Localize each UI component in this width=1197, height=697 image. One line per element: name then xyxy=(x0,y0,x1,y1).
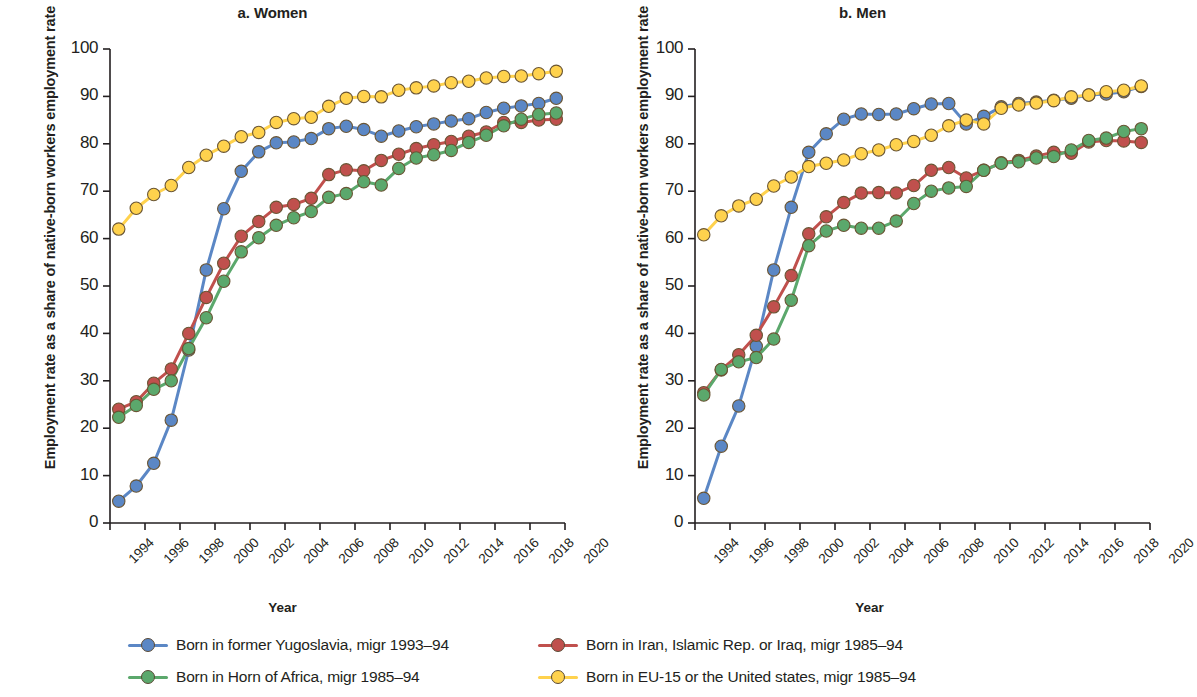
legend-dot xyxy=(141,638,155,652)
data-point xyxy=(445,144,457,156)
data-point xyxy=(235,165,247,177)
data-point xyxy=(200,264,212,276)
data-point xyxy=(218,140,230,152)
data-point xyxy=(130,202,142,214)
y-tick-label: 10 xyxy=(637,465,683,485)
data-point xyxy=(1118,125,1130,137)
data-point xyxy=(305,132,317,144)
data-point xyxy=(715,210,727,222)
data-point xyxy=(445,115,457,127)
y-tick-label: 50 xyxy=(637,275,683,295)
data-point xyxy=(820,225,832,237)
data-point xyxy=(235,230,247,242)
data-point xyxy=(890,187,902,199)
data-point xyxy=(200,312,212,324)
y-tick-label: 40 xyxy=(637,322,683,342)
y-tick-label: 100 xyxy=(52,38,98,58)
panel-men: b. Men Employment rate as a share of nat… xyxy=(585,0,1170,625)
data-point xyxy=(855,148,867,160)
data-point xyxy=(463,136,475,148)
data-point xyxy=(410,121,422,133)
data-point xyxy=(270,116,282,128)
data-point xyxy=(890,139,902,151)
data-point xyxy=(288,136,300,148)
data-point xyxy=(340,164,352,176)
data-point xyxy=(925,129,937,141)
data-point xyxy=(768,264,780,276)
legend-marker-icon xyxy=(538,668,578,686)
data-point xyxy=(908,135,920,147)
data-point xyxy=(1048,150,1060,162)
legend-item[interactable]: Born in Iran, Islamic Rep. or Iraq, migr… xyxy=(538,632,903,658)
data-point xyxy=(428,118,440,130)
data-point xyxy=(393,84,405,96)
axes xyxy=(688,49,1150,530)
data-point xyxy=(890,108,902,120)
data-point xyxy=(533,67,545,79)
y-tick-label: 30 xyxy=(637,370,683,390)
data-point xyxy=(733,356,745,368)
data-point xyxy=(515,100,527,112)
data-point xyxy=(375,91,387,103)
data-point xyxy=(270,137,282,149)
data-point xyxy=(550,92,562,104)
y-tick-label: 70 xyxy=(52,180,98,200)
data-point xyxy=(270,219,282,231)
data-point xyxy=(855,108,867,120)
data-point xyxy=(358,90,370,102)
y-tick-label: 10 xyxy=(52,465,98,485)
legend-dot xyxy=(141,670,155,684)
data-point xyxy=(908,179,920,191)
legend-label: Born in former Yugoslavia, migr 1993–94 xyxy=(176,636,449,654)
legend-item[interactable]: Born in Horn of Africa, migr 1985–94 xyxy=(128,664,420,690)
y-tick-label: 0 xyxy=(52,512,98,532)
data-point xyxy=(785,171,797,183)
data-point xyxy=(165,179,177,191)
data-point xyxy=(925,98,937,110)
data-point xyxy=(113,223,125,235)
data-point xyxy=(978,118,990,130)
data-point xyxy=(785,269,797,281)
data-point xyxy=(393,148,405,160)
legend-item[interactable]: Born in former Yugoslavia, migr 1993–94 xyxy=(128,632,449,658)
data-point xyxy=(323,122,335,134)
axes xyxy=(103,49,565,530)
data-point xyxy=(480,106,492,118)
data-point xyxy=(785,201,797,213)
data-point xyxy=(873,222,885,234)
data-point xyxy=(305,111,317,123)
data-point xyxy=(750,329,762,341)
data-point xyxy=(978,164,990,176)
legend-label: Born in Horn of Africa, migr 1985–94 xyxy=(176,668,420,686)
series-line xyxy=(704,129,1142,395)
y-tick-label: 100 xyxy=(637,38,683,58)
data-point xyxy=(550,65,562,77)
legend-dot xyxy=(551,638,565,652)
data-point xyxy=(323,100,335,112)
data-point xyxy=(515,70,527,82)
y-tick-label: 90 xyxy=(637,85,683,105)
data-point xyxy=(1100,85,1112,97)
panel-women: a. Women Employment rate as a share of n… xyxy=(0,0,585,625)
data-point xyxy=(200,149,212,161)
legend-marker-icon xyxy=(128,668,168,686)
data-point xyxy=(838,113,850,125)
figure-legend: Born in former Yugoslavia, migr 1993–94B… xyxy=(0,628,1170,697)
data-point xyxy=(498,120,510,132)
data-point xyxy=(428,149,440,161)
data-point xyxy=(183,327,195,339)
data-point xyxy=(803,160,815,172)
data-point xyxy=(165,375,177,387)
y-tick-label: 60 xyxy=(637,228,683,248)
data-point xyxy=(148,383,160,395)
data-point xyxy=(323,168,335,180)
data-point xyxy=(943,182,955,194)
data-point xyxy=(855,222,867,234)
legend-label: Born in EU-15 or the United states, migr… xyxy=(586,668,916,686)
data-point xyxy=(1030,152,1042,164)
data-point xyxy=(498,70,510,82)
legend-item[interactable]: Born in EU-15 or the United states, migr… xyxy=(538,664,916,690)
data-point xyxy=(873,144,885,156)
data-point xyxy=(323,191,335,203)
data-point xyxy=(358,123,370,135)
